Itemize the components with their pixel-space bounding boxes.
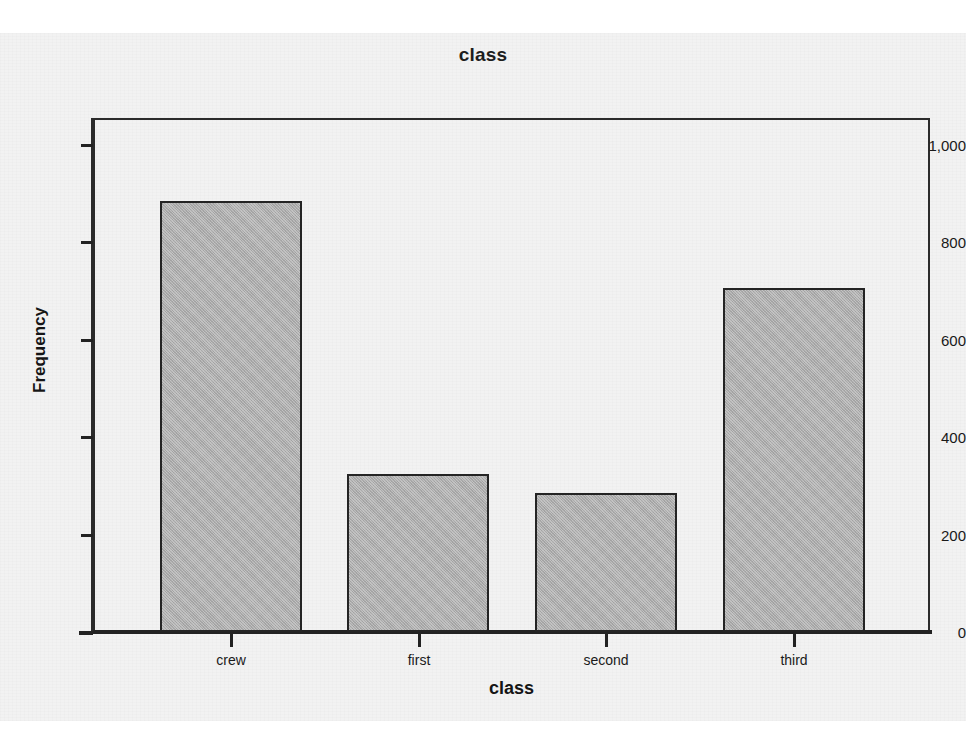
y-tick-1000 xyxy=(81,144,93,147)
y-tick-800 xyxy=(81,241,93,244)
x-tick-crew xyxy=(230,634,233,647)
bar-chart: class 0 200 400 600 800 1,000 Frequency … xyxy=(0,0,966,733)
bar-crew[interactable] xyxy=(160,201,302,632)
bar-second[interactable] xyxy=(535,493,677,632)
x-tick-third xyxy=(793,634,796,647)
x-axis-title: class xyxy=(93,678,930,699)
chart-title: class xyxy=(0,44,966,66)
y-tick-400 xyxy=(81,436,93,439)
y-axis-title: Frequency xyxy=(30,275,50,425)
y-tick-label-600: 600 xyxy=(896,332,966,349)
y-tick-label-1000: 1,000 xyxy=(896,137,966,154)
y-tick-600 xyxy=(81,339,93,342)
bar-third[interactable] xyxy=(723,288,865,632)
x-tick-label-crew: crew xyxy=(156,652,306,668)
x-tick-label-third: third xyxy=(719,652,869,668)
bar-first[interactable] xyxy=(347,474,489,632)
y-tick-label-400: 400 xyxy=(896,429,966,446)
y-tick-200 xyxy=(81,534,93,537)
chart-page: class 0 200 400 600 800 1,000 Frequency … xyxy=(0,0,966,733)
y-tick-label-200: 200 xyxy=(896,527,966,544)
y-tick-label-0: 0 xyxy=(896,624,966,641)
x-tick-first xyxy=(418,634,421,647)
y-tick-0 xyxy=(79,631,93,635)
x-tick-second xyxy=(605,634,608,647)
y-tick-label-800: 800 xyxy=(896,234,966,251)
x-tick-label-second: second xyxy=(531,652,681,668)
x-tick-label-first: first xyxy=(344,652,494,668)
y-axis-line xyxy=(91,118,94,634)
